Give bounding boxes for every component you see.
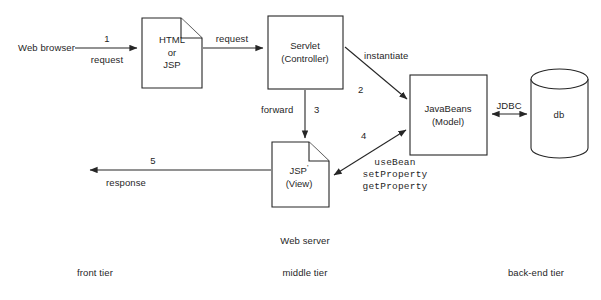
node-jsp-view-line2: (View)	[286, 178, 313, 189]
node-html-jsp-line1: HTML	[159, 34, 185, 45]
node-db-label: db	[554, 109, 565, 120]
edge-label-3-number: 3	[314, 104, 319, 115]
node-servlet-label: Servlet(Controller)	[281, 40, 329, 65]
edge-label-setproperty: setProperty	[363, 169, 428, 181]
node-javabeans-line2: (Model)	[432, 115, 464, 126]
node-html-jsp-label: HTMLorJSP	[159, 34, 185, 72]
tier-label-middle: middle tier	[283, 267, 328, 278]
node-html-jsp-line2: or	[168, 47, 176, 58]
edge-label-response: response	[106, 177, 146, 188]
tier-label-front: front tier	[77, 267, 113, 278]
edge-label-instantiate: instantiate	[364, 50, 408, 61]
node-jsp-view-label: JSP'(View)	[286, 162, 313, 190]
node-servlet-line1: Servlet	[290, 40, 320, 51]
edge-label-1-request: request	[91, 54, 123, 65]
diagram-canvas: Web browser HTMLorJSP Servlet(Controller…	[0, 0, 601, 300]
edge-label-1-number: 1	[104, 33, 109, 44]
node-jsp-view-line1: JSP	[290, 165, 307, 176]
edge-label-getproperty: getProperty	[363, 181, 428, 193]
node-jsp-view-prime: '	[307, 163, 309, 172]
node-html-jsp-line3: JSP	[163, 59, 180, 70]
node-servlet-line2: (Controller)	[281, 52, 329, 63]
edge-label-forward: forward	[261, 104, 293, 115]
edge-label-html-to-servlet-request: request	[216, 33, 248, 44]
node-javabeans-line1: JavaBeans	[424, 103, 471, 114]
annotation-web-server: Web server	[280, 235, 329, 246]
edge-label-usebean: useBean	[374, 157, 415, 169]
edge-label-5-number: 5	[150, 155, 155, 166]
node-web-browser-label: Web browser	[18, 42, 75, 53]
edge-label-4-number: 4	[361, 130, 366, 141]
edge-label-jdbc: JDBC	[496, 100, 521, 111]
edge-label-2-number: 2	[358, 84, 363, 95]
tier-label-back-end: back-end tier	[508, 267, 564, 278]
node-javabeans-label: JavaBeans(Model)	[424, 103, 471, 128]
